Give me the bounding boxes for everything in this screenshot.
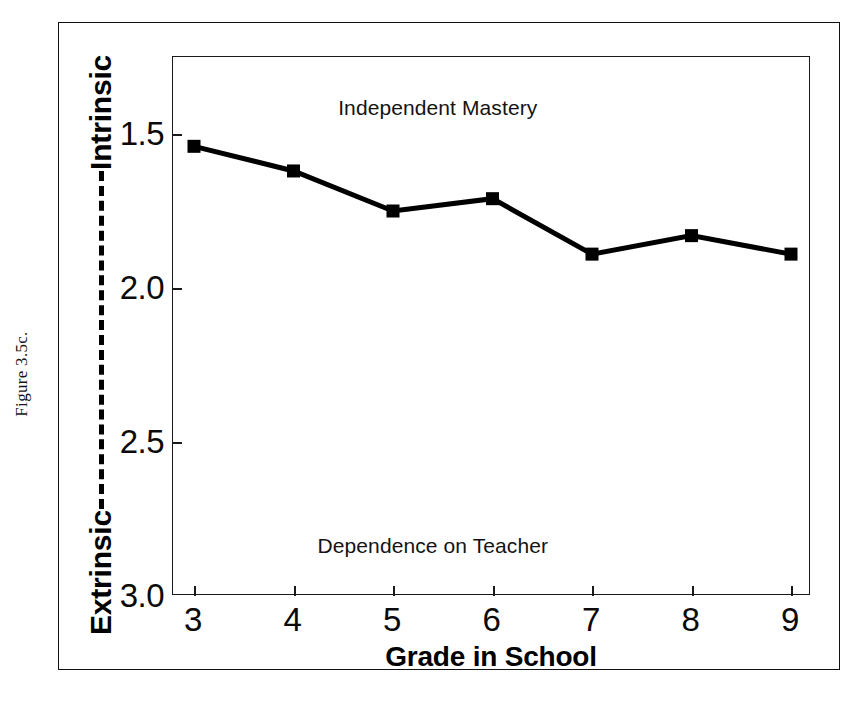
data-point-marker [486, 192, 499, 205]
y-tick-label-layer: 3.02.52.01.5 [88, 0, 172, 718]
data-point-marker [586, 248, 599, 261]
y-tick-label: 2.5 [90, 425, 164, 458]
x-tick-mark [493, 586, 495, 596]
figure-root: Figure 3.5c. Extrinsic Intrinsic 3.02.52… [0, 0, 864, 718]
x-tick-label: 6 [462, 603, 522, 636]
data-point-marker [685, 229, 698, 242]
x-tick-label: 8 [661, 603, 721, 636]
series-plot [173, 57, 811, 596]
x-tick-label: 7 [561, 603, 621, 636]
y-tick-mark [173, 442, 182, 444]
x-tick-mark [692, 586, 694, 596]
x-tick-mark [294, 586, 296, 596]
data-point-marker [785, 248, 798, 261]
y-tick-mark [173, 134, 182, 136]
y-tick-mark [173, 288, 182, 290]
data-point-marker [188, 140, 201, 153]
data-point-marker [387, 205, 400, 218]
plot-area: Independent MasteryDependence on Teacher [172, 56, 810, 595]
x-tick-mark [194, 586, 196, 596]
x-tick-label: 3 [163, 603, 223, 636]
x-tick-mark [791, 586, 793, 596]
y-tick-label: 3.0 [90, 579, 164, 612]
x-tick-label: 9 [760, 603, 820, 636]
y-tick-label: 2.0 [90, 271, 164, 304]
data-point-marker [287, 164, 300, 177]
x-tick-mark [393, 586, 395, 596]
annotation-dependence-on-teacher: Dependence on Teacher [318, 534, 549, 558]
x-tick-label: 4 [263, 603, 323, 636]
x-tick-mark [592, 586, 594, 596]
y-tick-label: 1.5 [90, 117, 164, 150]
annotation-independent-mastery: Independent Mastery [338, 96, 537, 120]
figure-caption: Figure 3.5c. [12, 314, 32, 434]
x-tick-label: 5 [362, 603, 422, 636]
x-axis-title: Grade in School [172, 641, 810, 673]
